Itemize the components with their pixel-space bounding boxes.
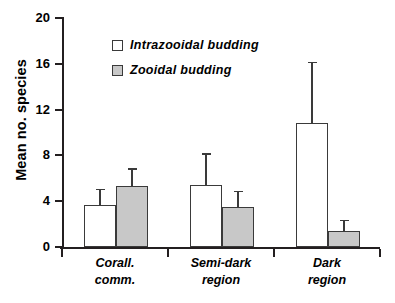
- legend-label: Intrazooidal budding: [130, 38, 259, 52]
- legend-swatch-icon-gray: [112, 65, 123, 76]
- bar-zooidal-3: [328, 231, 360, 247]
- bar-intrazooidal-2: [190, 185, 222, 247]
- error-bar-cap: [234, 191, 243, 193]
- legend-swatch-icon-white: [112, 40, 123, 51]
- error-bar: [237, 191, 238, 207]
- x-axis-line: [60, 247, 380, 249]
- error-bar: [131, 168, 132, 186]
- y-tick-label: 16: [20, 57, 50, 70]
- error-bar-cap: [96, 189, 105, 191]
- error-bar-cap: [128, 168, 137, 170]
- y-tick-label: 0: [20, 240, 50, 253]
- x-axis-label-group-3: Dark region: [274, 255, 380, 288]
- x-axis-label-group-2: Semi-dark region: [168, 255, 274, 288]
- error-bar-cap: [308, 62, 317, 64]
- y-tick-mark: [55, 200, 64, 202]
- y-tick-label: 12: [20, 103, 50, 116]
- error-bar-cap: [340, 220, 349, 222]
- error-bar-cap: [202, 153, 211, 155]
- error-bar: [205, 153, 206, 185]
- legend-item-zooidal-budding: Zooidal budding: [112, 63, 259, 77]
- y-axis-line: [62, 18, 64, 249]
- y-axis-title: Mean no. species: [13, 55, 29, 185]
- y-tick-mark: [55, 154, 64, 156]
- legend-label: Zooidal budding: [130, 63, 232, 77]
- bar-chart: Mean no. species 048121620 Corall. comm.…: [0, 0, 395, 303]
- x-axis-label-group-1: Corall. comm.: [62, 255, 168, 288]
- bar-intrazooidal-1: [84, 205, 116, 247]
- y-tick-label: 8: [20, 148, 50, 161]
- y-tick-mark: [55, 63, 64, 65]
- y-tick-label: 4: [20, 194, 50, 207]
- error-bar: [343, 220, 344, 231]
- error-bar: [99, 189, 100, 206]
- error-bar: [311, 62, 312, 124]
- bar-intrazooidal-3: [296, 123, 328, 247]
- bar-zooidal-2: [222, 207, 254, 247]
- bar-zooidal-1: [116, 186, 148, 247]
- legend-item-intrazooidal-budding: Intrazooidal budding: [112, 38, 259, 52]
- y-tick-mark: [55, 246, 64, 248]
- y-tick-mark: [55, 109, 64, 111]
- y-tick-mark: [55, 17, 64, 19]
- y-tick-label: 20: [20, 11, 50, 24]
- legend: Intrazooidal budding Zooidal budding: [112, 38, 259, 88]
